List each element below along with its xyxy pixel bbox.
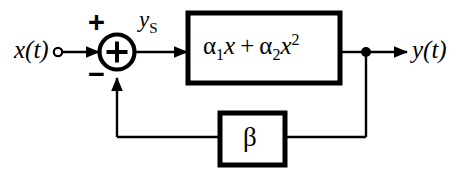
summer-output-signal-subscript: S <box>149 20 157 36</box>
block-diagram: x(t) y(t) yS + − α1x+α2x2 β <box>0 0 464 175</box>
summer-output-signal-label: yS <box>139 8 158 36</box>
summer-output-signal-base: y <box>139 7 149 32</box>
equation-term1-subscript: 1 <box>216 46 224 63</box>
equation-term2-exponent: 2 <box>292 31 300 48</box>
equation-term2-coefficient: α <box>259 32 272 59</box>
equation-operator: + <box>235 32 259 59</box>
forward-block-equation: α1x+α2x2 <box>203 32 300 63</box>
diagram-canvas <box>0 0 464 175</box>
equation-term1-coefficient: α <box>203 32 216 59</box>
input-signal-label: x(t) <box>14 37 49 62</box>
output-signal-label: y(t) <box>412 37 447 62</box>
equation-term1-variable: x <box>224 32 235 59</box>
input-terminal-node <box>54 48 62 56</box>
feedback-block-label: β <box>243 124 257 151</box>
equation-term2-variable: x <box>280 32 291 59</box>
summing-junction-negative-sign: − <box>88 60 105 89</box>
summing-junction-positive-sign: + <box>88 8 105 37</box>
